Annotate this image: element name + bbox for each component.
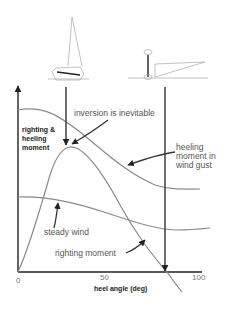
y-label-line-1: righting &	[22, 125, 55, 134]
y-label-line-3: moment	[22, 143, 55, 152]
steady-wind-curve	[18, 197, 210, 230]
x-axis-label: heel angle (deg)	[94, 284, 147, 293]
x-tick-50: 50	[100, 273, 109, 282]
gust-annotation: heeling moment in wind gust	[176, 143, 216, 170]
gust-pointer-arrow	[128, 152, 175, 165]
x-tick-100: 100	[192, 273, 205, 282]
x-tick-0: 0	[16, 276, 20, 285]
righting-moment-curve	[18, 147, 182, 292]
inversion-annotation: inversion is inevitable	[74, 109, 155, 118]
catamaran-capsized-icon	[128, 50, 208, 80]
y-label-line-2: heeling	[22, 134, 55, 143]
righting-moment-annotation: righting moment	[55, 249, 116, 258]
gust-line-3: wind gust	[176, 161, 216, 170]
steady-pointer-arrow	[54, 203, 58, 228]
righting-pointer-arrow	[126, 240, 145, 253]
catamaran-upright-icon	[48, 17, 89, 80]
y-axis-label: righting & heeling moment	[22, 125, 55, 152]
steady-wind-annotation: steady wind	[44, 228, 89, 237]
